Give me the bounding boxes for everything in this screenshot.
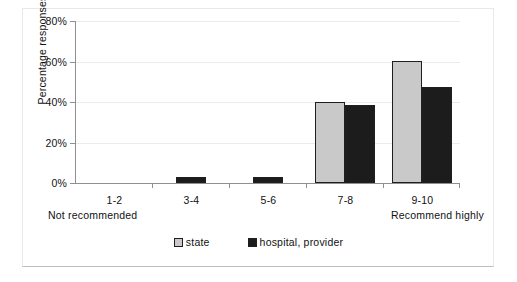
legend-swatch-icon-hospital bbox=[248, 238, 257, 247]
bar-hospital-5-6 bbox=[253, 177, 283, 183]
x-axis-note-left: Not recommended bbox=[30, 209, 137, 221]
y-tick-20 bbox=[70, 143, 75, 144]
y-tick-label-40: 40% bbox=[45, 96, 67, 108]
y-tick-label-20: 20% bbox=[45, 137, 67, 149]
bar-state-7-8 bbox=[315, 102, 345, 183]
bar-group-9-10 bbox=[383, 21, 460, 183]
y-tick-label-80: 80% bbox=[45, 15, 67, 27]
y-tick-label-0: 0% bbox=[51, 177, 67, 189]
x-label-7-8: 7-8 bbox=[307, 194, 384, 206]
x-label-1-2: 1-2 bbox=[76, 194, 153, 206]
x-tick-3 bbox=[306, 184, 307, 188]
bar-state-9-10 bbox=[392, 61, 422, 183]
x-axis-notes: Not recommended Recommend highly bbox=[30, 209, 490, 221]
x-tick-5 bbox=[459, 184, 460, 188]
y-tick-label-60: 60% bbox=[45, 56, 67, 68]
bar-group-1-2 bbox=[76, 21, 153, 183]
legend-swatch-icon-state bbox=[174, 238, 183, 247]
x-tick-1 bbox=[152, 184, 153, 188]
x-axis-line bbox=[75, 183, 460, 184]
y-tick-80 bbox=[70, 21, 75, 22]
x-tick-4 bbox=[383, 184, 384, 188]
y-tick-0 bbox=[70, 183, 75, 184]
plot-area: 80% 60% 40% 20% 0% bbox=[75, 21, 460, 184]
bar-hospital-9-10 bbox=[422, 87, 452, 183]
y-tick-40 bbox=[70, 102, 75, 103]
bar-hospital-7-8 bbox=[345, 105, 375, 183]
bar-hospital-3-4 bbox=[176, 177, 206, 183]
bar-chart: Percentage responses 80% 60% 40% 20% 0% bbox=[0, 0, 517, 282]
legend-label-state: state bbox=[186, 236, 210, 248]
x-axis-note-right: Recommend highly bbox=[391, 209, 490, 221]
x-tick-2 bbox=[229, 184, 230, 188]
chart-legend: state hospital, provider bbox=[0, 236, 517, 248]
bar-group-5-6 bbox=[230, 21, 307, 183]
y-tick-60 bbox=[70, 62, 75, 63]
legend-item-hospital-provider[interactable]: hospital, provider bbox=[248, 236, 344, 248]
bar-groups bbox=[76, 21, 460, 183]
legend-item-state[interactable]: state bbox=[174, 236, 210, 248]
bar-group-7-8 bbox=[306, 21, 383, 183]
x-label-9-10: 9-10 bbox=[384, 194, 461, 206]
x-label-5-6: 5-6 bbox=[230, 194, 307, 206]
x-label-3-4: 3-4 bbox=[153, 194, 230, 206]
bar-group-3-4 bbox=[153, 21, 230, 183]
x-axis-labels: 1-2 3-4 5-6 7-8 9-10 bbox=[76, 194, 461, 206]
legend-label-hospital-provider: hospital, provider bbox=[260, 236, 344, 248]
